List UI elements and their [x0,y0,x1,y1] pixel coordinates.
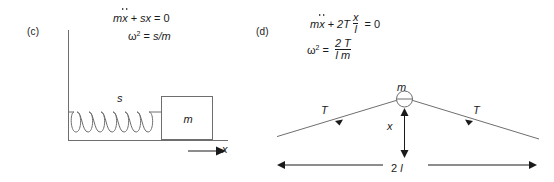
eq-c1-x: x [146,12,152,24]
spring-stiffness-label: s [117,92,123,104]
panel-c-label: (c) [27,26,39,37]
figure-canvas: (c) m x + s x = 0 ω 2 = s/m s m [0,0,554,182]
tension-label-right: T [473,104,480,116]
string-mass-diagram [277,0,554,182]
displacement-label: x [222,143,228,155]
length-dimension-label: 2 l [391,162,403,174]
eq-c1-x-doubledot: x [122,12,128,24]
panel-c-equation-1: m x + s x = 0 [113,12,170,24]
dimension-arrowhead-right [529,161,537,169]
eq-c1-equals: = [154,12,160,24]
dimension-arrowhead-left [277,161,285,169]
eq-c2-omega: ω [128,30,137,42]
panel-d-label: (d) [256,26,269,37]
eq-c2-rhs: s/m [153,30,171,42]
length-dimension-symbol: l [400,162,402,174]
tension-arrowhead-left [335,120,343,126]
string-left [277,99,401,139]
tension-label-left: T [321,104,328,116]
mass-label: m [397,81,406,93]
eq-c1-m: m [113,12,122,24]
eq-c2-exponent: 2 [137,30,141,37]
spring-icon [68,106,162,136]
displacement-label-d: x [387,120,393,132]
panel-c-equation-2: ω 2 = s/m [128,30,171,42]
displacement-arrowhead-up [401,108,409,116]
mass-block: m [161,96,213,140]
mass-block-label: m [162,97,214,141]
eq-c1-plus: + [131,12,137,24]
eq-c2-equals: = [144,30,150,42]
panel-d: (d) m x + 2T x l = 0 ω 2 = 2 T l m [277,0,554,182]
tension-arrowhead-right [465,120,473,126]
eq-c1-zero: 0 [164,12,170,24]
displacement-arrowhead-down [401,150,409,158]
panel-c: (c) m x + s x = 0 ω 2 = s/m s m [0,0,277,182]
